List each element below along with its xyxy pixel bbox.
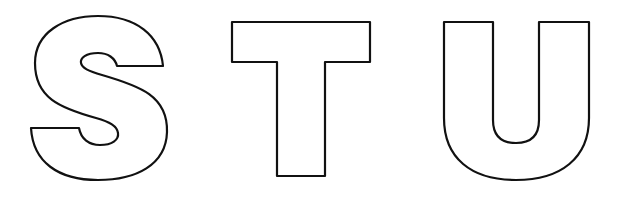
letter-t-outline [232,22,370,176]
letter-s-outline [31,16,167,180]
letter-u-outline [444,22,589,180]
